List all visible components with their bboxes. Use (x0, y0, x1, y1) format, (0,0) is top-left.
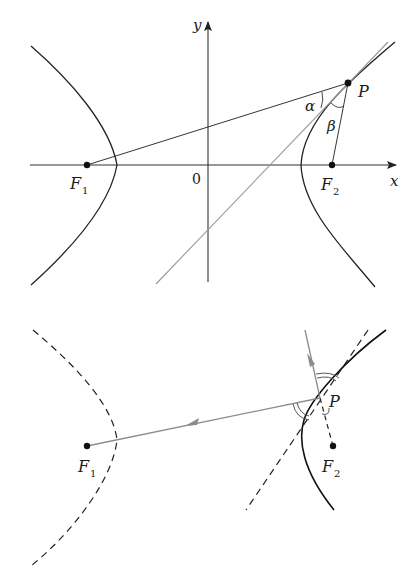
focus-F2-point (330, 443, 336, 449)
svg-text:F: F (321, 457, 334, 476)
y-axis-label: y (192, 16, 202, 34)
point-P (345, 80, 352, 87)
hyperbola-reflection-diagram: y x 0 P α β F 1 F 2 (0, 0, 413, 583)
angle-beta-label: β (326, 117, 336, 135)
hyperbola-right-branch (302, 330, 386, 510)
svg-text:F: F (77, 457, 90, 476)
focus-F1-label: F 1 (69, 174, 88, 196)
point-P-label: P (357, 82, 369, 101)
reflected-ray (87, 398, 320, 446)
focus-F1-point (84, 443, 90, 449)
svg-text:2: 2 (334, 468, 340, 479)
svg-text:1: 1 (82, 185, 88, 196)
focus-F1-point (84, 162, 90, 168)
svg-text:F: F (69, 174, 82, 193)
origin-label: 0 (192, 171, 201, 187)
bottom-figure: P F 1 F 2 (31, 330, 386, 566)
svg-text:2: 2 (333, 186, 339, 197)
point-P-label: P (328, 392, 340, 411)
angle-alpha-label: α (305, 97, 315, 115)
svg-text:1: 1 (90, 468, 96, 479)
top-figure: y x 0 P α β F 1 F 2 (30, 16, 399, 287)
tangent-line (156, 42, 388, 284)
hyperbola-left-branch-dashed (31, 330, 117, 566)
angle-alpha-arc (321, 92, 323, 108)
focus-F2-point (329, 162, 335, 168)
focus-F1-label: F 1 (77, 457, 96, 479)
focus-F2-label: F 2 (321, 457, 340, 479)
svg-text:F: F (320, 175, 333, 194)
x-axis-label: x (390, 172, 399, 190)
angle-beta-arc (331, 103, 344, 107)
focus-F2-label: F 2 (320, 175, 339, 197)
